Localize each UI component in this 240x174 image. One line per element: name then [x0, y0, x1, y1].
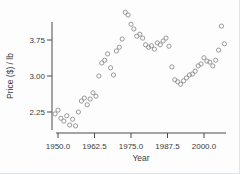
x-tick-label: 1987.5 [155, 142, 180, 151]
data-point [193, 69, 197, 73]
x-tick-label: 1975.0 [119, 142, 144, 151]
data-point [56, 108, 60, 112]
data-point [219, 24, 223, 28]
data-point [62, 119, 66, 123]
data-point [120, 37, 124, 41]
data-point [222, 42, 226, 46]
data-point [114, 49, 118, 53]
data-point [65, 114, 69, 118]
data-point [132, 27, 136, 31]
data-point [152, 47, 156, 51]
x-tick-label: 1962.5 [82, 142, 107, 151]
data-point [211, 64, 215, 68]
data-point [106, 52, 110, 56]
data-point [167, 44, 171, 48]
data-point [109, 66, 113, 70]
data-point [88, 97, 92, 101]
scatter-points [53, 10, 226, 128]
data-point [76, 110, 80, 114]
data-point [85, 103, 89, 107]
x-axis-title: Year [132, 153, 149, 163]
data-point [129, 22, 133, 26]
x-tick-label: 2000.0 [192, 142, 217, 151]
x-axis-ticks: 1950.01962.51975.01987.52000.0 [46, 133, 217, 151]
data-point [94, 94, 98, 98]
x-tick-label: 1950.0 [46, 142, 71, 151]
data-point [82, 96, 86, 100]
scatter-plot-canvas: 1950.01962.51975.01987.52000.0 2.253.003… [0, 0, 239, 173]
scatter-plot-figure: 1950.01962.51975.01987.52000.0 2.253.003… [0, 0, 240, 174]
y-axis-title: Price ($) / lb [5, 53, 15, 99]
data-point [217, 48, 221, 52]
data-point [126, 13, 130, 17]
y-axis-ticks: 2.253.003.75 [29, 36, 52, 117]
data-point [111, 73, 115, 77]
data-point [214, 58, 218, 62]
data-point [103, 58, 107, 62]
data-point [68, 123, 72, 127]
y-tick-label: 3.00 [29, 72, 45, 81]
data-point [71, 117, 75, 121]
data-point [97, 74, 101, 78]
data-point [73, 124, 77, 128]
y-tick-label: 3.75 [29, 36, 45, 45]
data-point [117, 45, 121, 49]
data-point [53, 112, 57, 116]
data-point [141, 36, 145, 40]
y-tick-label: 2.25 [29, 108, 45, 117]
data-point [164, 36, 168, 40]
data-point [170, 65, 174, 69]
